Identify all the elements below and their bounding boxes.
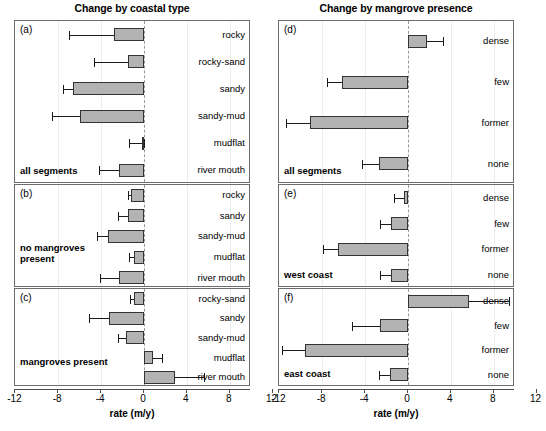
category-label: rocky-sand [199, 56, 245, 67]
error-bar-cap [69, 31, 70, 40]
error-bar-cap [282, 346, 283, 355]
bar-row: sandy [15, 206, 249, 227]
error-bar-cap [97, 232, 98, 241]
error-bar-cap [286, 119, 287, 128]
category-label: few [494, 76, 509, 87]
category-label: mudflat [214, 352, 245, 363]
bar [380, 319, 408, 332]
column-mangrove-presence: Change by mangrove presence (d)densefewf… [264, 0, 528, 431]
panel-e: (e)densefewformernonewest coast [278, 184, 514, 287]
error-bar-cap [118, 212, 119, 221]
axis-tick-label: 4 [166, 393, 206, 404]
bar [119, 164, 144, 177]
bar [73, 82, 144, 95]
error-bar-line [427, 41, 443, 42]
bar-row: sandy [15, 75, 249, 102]
axis-tick-label: 0 [123, 393, 163, 404]
bar [134, 251, 144, 264]
error-bar-line [63, 89, 74, 90]
axis-line [278, 389, 514, 390]
error-bar-line [94, 62, 128, 63]
axis-tick [143, 389, 144, 393]
axis-tick [364, 389, 365, 393]
axis-tick-label: -12 [0, 393, 34, 404]
error-bar-cap [129, 139, 130, 148]
error-bar-cap [323, 245, 324, 254]
bar [310, 116, 408, 129]
error-bar-line [379, 375, 390, 376]
category-label: dense [483, 192, 509, 203]
axis-tick-label: 12 [516, 393, 546, 404]
error-bar-cap [394, 194, 395, 203]
error-bar-cap [130, 295, 131, 304]
axis-tick-label: -4 [80, 393, 120, 404]
bar [126, 331, 144, 344]
error-bar-cap [52, 112, 53, 121]
bar-row: rocky-sand [15, 48, 249, 75]
axis-tick [493, 389, 494, 393]
category-label: dense [483, 295, 509, 306]
bar-row: sandy-mud [15, 103, 249, 130]
error-bar-cap [379, 371, 380, 380]
error-bar-cap [89, 314, 90, 323]
axis-tick [229, 389, 230, 393]
axis-tick-label: 8 [473, 393, 513, 404]
axis-tick [536, 389, 537, 393]
column-coastal-type: Change by coastal type (a)rockyrocky-san… [0, 0, 264, 431]
bar [305, 344, 408, 357]
bar-row: former [279, 103, 513, 144]
group-label-d: all segments [284, 166, 376, 177]
category-label: former [482, 344, 509, 355]
category-label: rocky [222, 29, 245, 40]
category-label: sandy-mud [198, 110, 245, 121]
error-bar-cap [63, 85, 64, 94]
bar [391, 217, 408, 230]
axis-tick [57, 389, 58, 393]
bar-row: dense [279, 289, 513, 314]
bar-row: sandy-mud [15, 328, 249, 348]
group-label-e: west coast [284, 270, 376, 281]
category-label: former [482, 243, 509, 254]
category-label: sandy [220, 312, 245, 323]
category-label: sandy [220, 210, 245, 221]
bar-row: dense [279, 21, 513, 62]
error-bar-line [352, 326, 380, 327]
bar [144, 371, 175, 384]
bar-row: rocky-sand [15, 289, 249, 309]
bar [114, 28, 144, 41]
category-label: dense [483, 35, 509, 46]
error-bar-line [118, 338, 126, 339]
panel-f: (f)densefewformernoneeast coast [278, 288, 514, 386]
bar [338, 243, 408, 256]
error-bar-line [52, 116, 80, 117]
category-label: none [488, 269, 509, 280]
bar-row: river mouth [15, 267, 249, 288]
bar-row: river mouth [15, 367, 249, 387]
category-label: rocky [222, 189, 245, 200]
error-bar-line [327, 82, 342, 83]
bar-row: former [279, 338, 513, 363]
error-bar-line [89, 318, 108, 319]
axis-tick-label: -4 [344, 393, 384, 404]
axis-tick [450, 389, 451, 393]
bar [128, 209, 144, 222]
axis-tick [407, 389, 408, 393]
axis-tick-label: -8 [37, 393, 77, 404]
axis-title: rate (m/y) [0, 408, 264, 419]
category-label: sandy [220, 83, 245, 94]
category-label: river mouth [197, 164, 245, 175]
axis-tick-label: -8 [301, 393, 341, 404]
category-label: few [494, 218, 509, 229]
panel-c: (c)rocky-sandsandysandy-mudmudflatriver … [14, 288, 250, 386]
error-bar-cap [100, 274, 101, 283]
category-label: mudflat [214, 137, 245, 148]
error-bar-line [362, 164, 379, 165]
axis-tick-label: 4 [430, 393, 470, 404]
bar-row: none [279, 143, 513, 184]
error-bar-line [97, 236, 108, 237]
bar [119, 271, 144, 284]
error-bar-cap [380, 220, 381, 229]
category-label: mudflat [214, 251, 245, 262]
bar-row: former [279, 237, 513, 263]
